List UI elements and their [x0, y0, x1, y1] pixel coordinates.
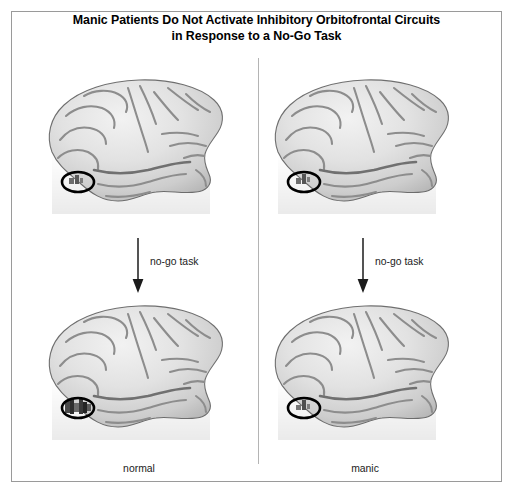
brain-bottom-right	[262, 300, 452, 440]
brain-top-right	[262, 74, 452, 214]
brain-lateral-icon	[262, 74, 452, 214]
arrow-group-normal: no-go task	[128, 238, 278, 298]
arrow-label-manic: no-go task	[375, 256, 424, 268]
brain-lateral-icon	[36, 74, 226, 214]
column-label-manic: manic	[290, 463, 440, 475]
down-arrow-icon	[128, 238, 148, 294]
column-label-normal: normal	[64, 463, 214, 475]
brain-bottom-left	[36, 300, 226, 440]
arrow-label-normal: no-go task	[150, 256, 199, 268]
down-arrow-icon	[353, 238, 373, 294]
figure-root: Manic Patients Do Not Activate Inhibitor…	[0, 0, 513, 494]
arrow-group-manic: no-go task	[353, 238, 503, 298]
figure-title-line-1: Manic Patients Do Not Activate Inhibitor…	[14, 13, 499, 29]
figure-title: Manic Patients Do Not Activate Inhibitor…	[14, 13, 499, 44]
brain-lateral-icon	[262, 300, 452, 440]
brain-lateral-icon	[36, 300, 226, 440]
figure-title-line-2: in Response to a No-Go Task	[14, 29, 499, 45]
brain-top-left	[36, 74, 226, 214]
